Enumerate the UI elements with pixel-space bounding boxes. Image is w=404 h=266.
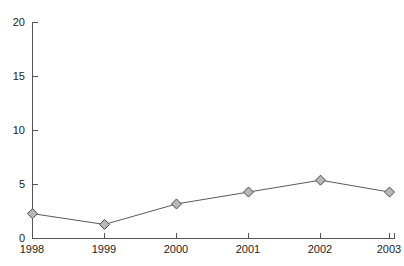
x-tick-group: 1998 1999 2000 2001 2002 2003 — [20, 233, 401, 255]
x-tick-label-2000: 2000 — [164, 243, 188, 255]
y-tick-label-20: 20 — [13, 16, 25, 28]
data-point-marker — [28, 209, 38, 219]
x-tick-label-2003: 2003 — [377, 243, 401, 255]
data-point-marker — [100, 219, 110, 229]
y-tick-label-5: 5 — [19, 178, 25, 190]
data-point-marker — [172, 199, 182, 209]
series-line — [33, 180, 390, 224]
data-point-marker — [316, 175, 326, 185]
x-tick-label-2001: 2001 — [236, 243, 260, 255]
line-chart: 0 5 10 15 20 1998 1999 2000 2001 2002 20… — [0, 0, 404, 266]
x-tick-label-1999: 1999 — [92, 243, 116, 255]
data-point-marker — [385, 187, 395, 197]
x-tick-label-1998: 1998 — [20, 243, 44, 255]
data-point-marker — [244, 187, 254, 197]
y-tick-label-15: 15 — [13, 70, 25, 82]
x-tick-label-2002: 2002 — [308, 243, 332, 255]
y-tick-label-10: 10 — [13, 124, 25, 136]
chart-canvas: 0 5 10 15 20 1998 1999 2000 2001 2002 20… — [0, 0, 404, 266]
